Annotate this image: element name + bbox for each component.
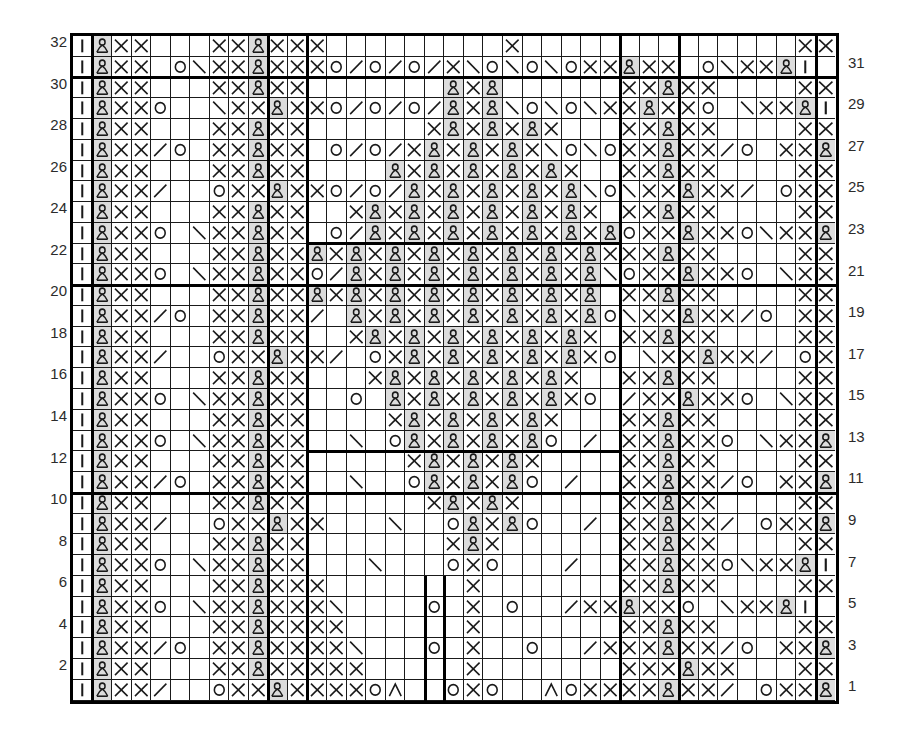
stitch-cell-cross-knit[interactable] xyxy=(796,285,816,306)
stitch-cell-cross-knit[interactable] xyxy=(268,368,288,389)
stitch-cell-cross-knit[interactable] xyxy=(268,223,288,244)
stitch-cell-twisted-stitch[interactable] xyxy=(816,140,836,161)
stitch-cell-cross-knit[interactable] xyxy=(444,285,464,306)
stitch-cell-cross-knit[interactable] xyxy=(464,98,484,119)
stitch-cell-yarn-over-circle[interactable] xyxy=(757,680,777,701)
stitch-cell-cross-knit[interactable] xyxy=(718,223,738,244)
stitch-cell-twisted-stitch[interactable] xyxy=(483,410,503,431)
stitch-cell-twisted-stitch[interactable] xyxy=(542,368,562,389)
stitch-cell-twisted-stitch[interactable] xyxy=(444,410,464,431)
stitch-cell-empty-cell[interactable] xyxy=(347,347,367,368)
stitch-cell-centered-double-decrease[interactable] xyxy=(386,680,406,701)
stitch-cell-twisted-stitch[interactable] xyxy=(679,306,699,327)
stitch-cell-cross-knit[interactable] xyxy=(112,576,132,597)
stitch-cell-empty-cell[interactable] xyxy=(405,597,425,618)
stitch-cell-yarn-over-circle[interactable] xyxy=(581,389,601,410)
stitch-cell-twisted-stitch[interactable] xyxy=(464,306,484,327)
stitch-cell-empty-cell[interactable] xyxy=(425,36,445,57)
stitch-cell-twisted-stitch[interactable] xyxy=(425,306,445,327)
stitch-cell-empty-cell[interactable] xyxy=(503,534,523,555)
stitch-cell-cross-knit[interactable] xyxy=(210,617,230,638)
stitch-cell-cross-knit[interactable] xyxy=(816,36,836,57)
stitch-cell-cross-knit[interactable] xyxy=(464,493,484,514)
stitch-cell-empty-cell[interactable] xyxy=(366,576,386,597)
stitch-cell-empty-cell[interactable] xyxy=(757,161,777,182)
stitch-cell-cross-knit[interactable] xyxy=(620,140,640,161)
stitch-cell-cross-knit[interactable] xyxy=(112,514,132,535)
stitch-cell-cross-knit[interactable] xyxy=(132,140,152,161)
stitch-cell-cross-knit[interactable] xyxy=(699,431,719,452)
stitch-cell-cross-knit[interactable] xyxy=(132,244,152,265)
stitch-cell-twisted-stitch[interactable] xyxy=(679,659,699,680)
stitch-cell-cross-knit[interactable] xyxy=(386,410,406,431)
stitch-cell-empty-cell[interactable] xyxy=(405,617,425,638)
stitch-cell-cross-knit[interactable] xyxy=(327,680,347,701)
stitch-cell-cross-knit[interactable] xyxy=(132,389,152,410)
stitch-cell-cross-knit[interactable] xyxy=(405,264,425,285)
stitch-cell-twisted-stitch[interactable] xyxy=(503,161,523,182)
stitch-cell-cross-knit[interactable] xyxy=(503,327,523,348)
stitch-cell-cross-knit[interactable] xyxy=(210,451,230,472)
stitch-cell-cross-knit[interactable] xyxy=(210,306,230,327)
stitch-cell-empty-cell[interactable] xyxy=(542,534,562,555)
stitch-cell-twisted-stitch[interactable] xyxy=(93,223,113,244)
stitch-cell-cross-knit[interactable] xyxy=(581,680,601,701)
stitch-cell-right-slant-decrease[interactable] xyxy=(308,306,328,327)
stitch-cell-cross-knit[interactable] xyxy=(425,202,445,223)
stitch-cell-twisted-stitch[interactable] xyxy=(816,223,836,244)
stitch-cell-cross-knit[interactable] xyxy=(562,244,582,265)
stitch-cell-empty-cell[interactable] xyxy=(757,327,777,348)
stitch-cell-right-slant-decrease[interactable] xyxy=(738,306,758,327)
stitch-cell-cross-knit[interactable] xyxy=(699,78,719,99)
stitch-cell-empty-cell[interactable] xyxy=(405,514,425,535)
stitch-cell-cross-knit[interactable] xyxy=(562,306,582,327)
stitch-cell-twisted-stitch[interactable] xyxy=(483,202,503,223)
stitch-cell-cross-knit[interactable] xyxy=(581,597,601,618)
stitch-cell-empty-cell[interactable] xyxy=(190,161,210,182)
stitch-cell-cross-knit[interactable] xyxy=(796,431,816,452)
stitch-cell-right-slant-decrease[interactable] xyxy=(151,638,171,659)
stitch-cell-empty-cell[interactable] xyxy=(386,78,406,99)
stitch-cell-cross-knit[interactable] xyxy=(738,57,758,78)
stitch-cell-cross-knit[interactable] xyxy=(816,659,836,680)
stitch-cell-empty-cell[interactable] xyxy=(601,451,621,472)
stitch-cell-yarn-over-circle[interactable] xyxy=(171,472,191,493)
stitch-cell-twisted-stitch[interactable] xyxy=(659,410,679,431)
stitch-cell-yarn-over-circle[interactable] xyxy=(151,597,171,618)
stitch-cell-empty-cell[interactable] xyxy=(562,36,582,57)
stitch-cell-empty-cell[interactable] xyxy=(581,617,601,638)
stitch-cell-twisted-stitch[interactable] xyxy=(425,244,445,265)
stitch-cell-cross-knit[interactable] xyxy=(366,306,386,327)
stitch-cell-twisted-stitch[interactable] xyxy=(562,202,582,223)
stitch-cell-empty-cell[interactable] xyxy=(816,57,836,78)
stitch-cell-empty-cell[interactable] xyxy=(386,576,406,597)
stitch-cell-empty-cell[interactable] xyxy=(464,36,484,57)
stitch-cell-twisted-stitch[interactable] xyxy=(249,638,269,659)
stitch-cell-cross-knit[interactable] xyxy=(288,161,308,182)
stitch-cell-empty-cell[interactable] xyxy=(347,493,367,514)
stitch-cell-cross-knit[interactable] xyxy=(659,306,679,327)
stitch-cell-cross-knit[interactable] xyxy=(816,368,836,389)
stitch-cell-cross-knit[interactable] xyxy=(288,181,308,202)
stitch-cell-empty-cell[interactable] xyxy=(562,431,582,452)
stitch-cell-twisted-stitch[interactable] xyxy=(444,431,464,452)
stitch-cell-left-slant-decrease[interactable] xyxy=(581,98,601,119)
stitch-cell-cross-knit[interactable] xyxy=(659,223,679,244)
stitch-cell-cross-knit[interactable] xyxy=(132,161,152,182)
stitch-cell-yarn-over-circle[interactable] xyxy=(718,555,738,576)
stitch-cell-empty-cell[interactable] xyxy=(777,327,797,348)
stitch-cell-yarn-over-circle[interactable] xyxy=(171,57,191,78)
stitch-cell-empty-cell[interactable] xyxy=(757,244,777,265)
stitch-cell-twisted-stitch[interactable] xyxy=(249,576,269,597)
stitch-cell-empty-cell[interactable] xyxy=(562,638,582,659)
stitch-cell-cross-knit[interactable] xyxy=(523,285,543,306)
stitch-cell-yarn-over-circle[interactable] xyxy=(757,514,777,535)
stitch-cell-cross-knit[interactable] xyxy=(132,264,152,285)
stitch-cell-twisted-stitch[interactable] xyxy=(503,306,523,327)
stitch-cell-cross-knit[interactable] xyxy=(718,347,738,368)
stitch-cell-cross-knit[interactable] xyxy=(464,555,484,576)
stitch-cell-cross-knit[interactable] xyxy=(327,617,347,638)
stitch-cell-empty-cell[interactable] xyxy=(171,597,191,618)
stitch-cell-empty-cell[interactable] xyxy=(386,597,406,618)
stitch-cell-cross-knit[interactable] xyxy=(347,659,367,680)
